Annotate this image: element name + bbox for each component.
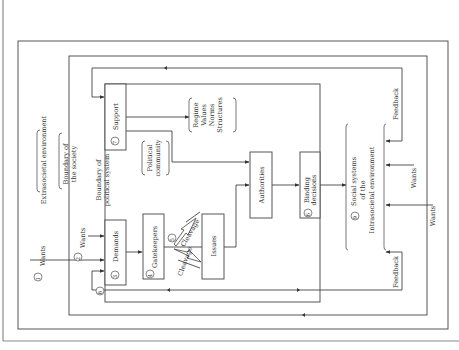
svg-text:political system: political system: [103, 153, 111, 206]
svg-text:1: 1: [35, 277, 41, 281]
svg-text:7: 7: [112, 141, 118, 145]
svg-text:4: 4: [147, 274, 153, 278]
svg-text:Extrasocietal environment: Extrasocietal environment: [40, 115, 48, 204]
cleavage-node: Cleavage Cleavage 5: [164, 212, 202, 277]
boundary-society-label-group: Boundary of the society: [59, 133, 78, 189]
svg-text:9: 9: [352, 216, 358, 220]
feedback-bottom-label: Feedback: [392, 255, 400, 288]
svg-text:Demands: Demands: [112, 230, 120, 262]
svg-text:of the: of the: [359, 180, 367, 199]
support-node: Support 7: [105, 84, 126, 150]
political-community-group: Political community: [142, 139, 169, 176]
wants-2-node: 2 Wants: [74, 227, 104, 261]
svg-text:decisions: decisions: [310, 174, 318, 206]
svg-text:Norms: Norms: [208, 103, 216, 126]
svg-text:Wants: Wants: [39, 245, 47, 266]
social-systems-group: Social systems of the Intrasocietal envi…: [346, 124, 386, 250]
svg-text:Social systems: Social systems: [350, 156, 358, 206]
wants-1-node: 1 Wants: [30, 245, 104, 281]
support-label: Support: [112, 103, 120, 130]
svg-text:community: community: [154, 139, 162, 176]
wants-right-a-label: Wants: [410, 167, 418, 188]
svg-text:Wants: Wants: [79, 227, 87, 248]
feedback-top-label: Feedback: [392, 87, 400, 120]
extrasocietal-label-group: Extrasocietal environment: [37, 115, 48, 204]
svg-text:Values: Values: [200, 104, 208, 127]
svg-text:Structures: Structures: [216, 97, 224, 133]
gatekeepers-node: Gatekeepers 4: [143, 214, 164, 279]
svg-text:Issues: Issues: [210, 235, 218, 257]
svg-text:Gatekeepers: Gatekeepers: [151, 225, 159, 268]
svg-text:5: 5: [169, 238, 175, 242]
issues-node: Issues: [202, 214, 224, 279]
svg-text:3: 3: [112, 275, 118, 279]
svg-text:Boundary of: Boundary of: [95, 159, 103, 200]
binding-decisions-node: Binding decisions 6: [300, 152, 320, 218]
political-system-diagram: Support 7 Regime Values Norms Structures…: [0, 0, 459, 350]
svg-text:Authorities: Authorities: [258, 166, 266, 205]
svg-text:Regime: Regime: [192, 102, 200, 127]
boundary-polsys-label-group: Boundary of political system: [95, 153, 111, 206]
wants-right-b-label: Wants: [429, 205, 437, 226]
demands-node: Demands 3: [105, 220, 126, 285]
svg-text:the society: the society: [70, 146, 78, 183]
svg-text:2: 2: [75, 257, 81, 261]
svg-text:Boundary of: Boundary of: [62, 143, 70, 184]
svg-text:8: 8: [97, 291, 103, 295]
svg-text:Political: Political: [146, 145, 154, 172]
svg-text:Intrasocietal environment: Intrasocietal environment: [368, 146, 376, 233]
authorities-node: Authorities: [250, 152, 272, 218]
svg-text:6: 6: [305, 213, 311, 217]
regime-group: Regime Values Norms Structures: [189, 97, 236, 133]
